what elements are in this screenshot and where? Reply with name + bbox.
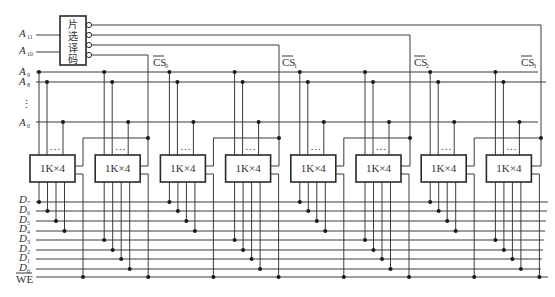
signal-name: WE [16, 273, 33, 285]
junction-dot [323, 229, 327, 233]
junction-dot [408, 136, 412, 140]
signal-name: A [18, 75, 26, 87]
junction-dot [493, 70, 497, 74]
signal-name: A [18, 27, 26, 39]
chip-label: 1K×4 [105, 162, 131, 174]
junction-dot [306, 80, 310, 84]
junction-dot [363, 238, 367, 242]
we-pin-wire [336, 174, 344, 277]
cs0-label: CS 0 [153, 56, 168, 69]
junction-dot [110, 80, 114, 84]
junction-dot [510, 257, 514, 261]
junction-dot [306, 209, 310, 213]
junction-dot [126, 120, 130, 124]
junction-dot [176, 209, 180, 213]
junction-dot [387, 120, 391, 124]
junction-dot [54, 219, 58, 223]
address-pin-ellipsis: … [180, 140, 191, 152]
cs2-chip-select-route [401, 138, 410, 166]
junction-dot [472, 275, 476, 279]
junction-dot [167, 200, 171, 204]
junction-dot [517, 120, 521, 124]
junction-dot [250, 257, 254, 261]
junction-dot [119, 257, 123, 261]
decoder-label-char: 译 [68, 43, 78, 54]
signal-subscript: 9 [27, 72, 30, 78]
junction-dot [363, 70, 367, 74]
signal-subscript: 11 [27, 34, 33, 40]
signal-subscript: 6 [27, 210, 30, 216]
junction-dot [128, 267, 132, 271]
junction-dot [315, 219, 319, 223]
signal-subscript: 3 [27, 239, 30, 245]
chip-select-decoder: 片 选 译 码 [60, 16, 86, 65]
junction-dot [519, 267, 523, 271]
junction-dot [277, 275, 281, 279]
we-pin-wire [466, 174, 474, 277]
junction-dot [241, 248, 245, 252]
signal-subscript: 2 [27, 249, 30, 255]
memory-chip: 1K×4… [291, 140, 336, 182]
address-pin-ellipsis: … [441, 140, 452, 152]
memory-chip: 1K×4… [421, 140, 466, 182]
we-pin-wire [401, 174, 409, 277]
signal-subscript: 0 [165, 63, 168, 69]
decoder-label-char: 片 [68, 18, 78, 30]
junction-dot [445, 219, 449, 223]
chip-label: 1K×4 [366, 162, 392, 174]
memory-chip: 1K×4… [30, 140, 75, 182]
inverted-output-bubble [86, 22, 91, 27]
we-pin-wire [75, 174, 83, 277]
junction-dot [37, 200, 41, 204]
junction-dot [502, 248, 506, 252]
cs0-chip-select-route [140, 138, 148, 166]
signal-subscript: 2 [426, 63, 429, 69]
junction-dot [46, 209, 50, 213]
junction-dot [277, 136, 281, 140]
chip-label: 1K×4 [170, 162, 196, 174]
junction-dot [437, 209, 441, 213]
inverted-output-bubble [86, 42, 91, 47]
junction-dot [241, 80, 245, 84]
junction-dot [372, 248, 376, 252]
inverted-output-bubble [86, 52, 91, 57]
junction-dot [45, 80, 49, 84]
cs1-label: CS 1 [282, 56, 297, 69]
signal-subscript: 8 [27, 82, 30, 88]
we-pin-wire [531, 174, 539, 277]
junction-dot [63, 229, 67, 233]
signal-name: A [18, 116, 26, 128]
inverted-output-bubble [86, 32, 91, 37]
address-pin-ellipsis: … [506, 140, 517, 152]
memory-expansion-diagram: 片 选 译 码 A 11 A 10 A 9 A 8 ⋮ A 0 CS 0 CS … [0, 0, 555, 297]
chip-label: 1K×4 [40, 162, 66, 174]
chip-label: 1K×4 [431, 162, 457, 174]
address-pin-ellipsis: … [115, 140, 126, 152]
signal-subscript: 1 [294, 63, 297, 69]
junction-dot [37, 70, 41, 74]
junction-dot [102, 238, 106, 242]
signal-name: D [18, 261, 27, 273]
signal-subscript: 0 [27, 123, 30, 129]
chip-label: 1K×4 [496, 162, 522, 174]
junction-dot [257, 120, 261, 124]
signal-subscript: 1 [27, 258, 30, 264]
junction-dot [322, 120, 326, 124]
junction-dot [233, 70, 237, 74]
address-pin-ellipsis: … [310, 140, 321, 152]
address-a0-label: A 0 [18, 116, 30, 129]
junction-dot [233, 238, 237, 242]
junction-dot [371, 80, 375, 84]
junction-dot [493, 238, 497, 242]
address-pin-ellipsis: … [50, 140, 61, 152]
decoder-input-a10-label: A 10 [18, 44, 33, 57]
decoder-label-char: 选 [68, 30, 78, 42]
junction-dot [102, 70, 106, 74]
cs3-chip-select-route [531, 138, 541, 166]
junction-dot [537, 275, 541, 279]
junction-dot [258, 267, 262, 271]
memory-chips: 1K×4…1K×4…1K×4…1K×4…1K×4…1K×4…1K×4…1K×4… [30, 140, 531, 182]
junction-dot [146, 275, 150, 279]
junction-dot [501, 80, 505, 84]
junction-dot [454, 229, 458, 233]
